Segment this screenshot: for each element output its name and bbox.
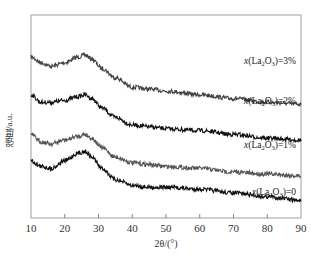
x-axis-label: 2θ/(°) (154, 238, 177, 250)
y-axis-label: 强度/a.u. (2, 95, 16, 165)
svg-text:40: 40 (127, 222, 139, 234)
series-label-0pct: x(La2O3)=0 (251, 187, 296, 198)
svg-text:30: 30 (93, 222, 105, 234)
svg-text:70: 70 (228, 222, 240, 234)
svg-text:20: 20 (59, 222, 71, 234)
svg-text:50: 50 (161, 222, 173, 234)
svg-text:10: 10 (26, 222, 38, 234)
series-label-1pct: x(La2O3)=1% (243, 140, 296, 151)
svg-text:80: 80 (262, 222, 274, 234)
series-curves (31, 53, 301, 202)
series-label-2pct: x(La2O3)=2% (243, 96, 296, 107)
xrd-chart: 102030405060708090 x(La2O3)=3% x(La2O3)=… (0, 0, 319, 260)
x-axis-ticks: 102030405060708090 (26, 214, 308, 234)
svg-text:90: 90 (296, 222, 308, 234)
svg-text:60: 60 (194, 222, 206, 234)
series-label-3pct: x(La2O3)=3% (243, 56, 296, 67)
